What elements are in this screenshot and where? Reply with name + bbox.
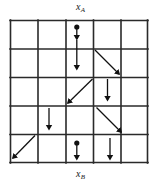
arrow-row4-col4-diagonal — [97, 108, 122, 133]
source-dot-top — [74, 24, 79, 29]
arrow-row3-col3-diagonal — [68, 79, 93, 103]
arrow-layer — [13, 27, 121, 159]
arrow-row2-col4-diagonal — [95, 50, 119, 74]
axis-label-bottom-subscript: B — [80, 173, 85, 181]
source-dot-bottom — [74, 140, 79, 145]
lattice-grid-canvas — [0, 0, 161, 186]
arrow-row5-col1-diagonal — [13, 136, 35, 159]
axis-label-bottom: xB — [0, 168, 161, 181]
lattice-arrow-figure: xA — [0, 0, 161, 186]
